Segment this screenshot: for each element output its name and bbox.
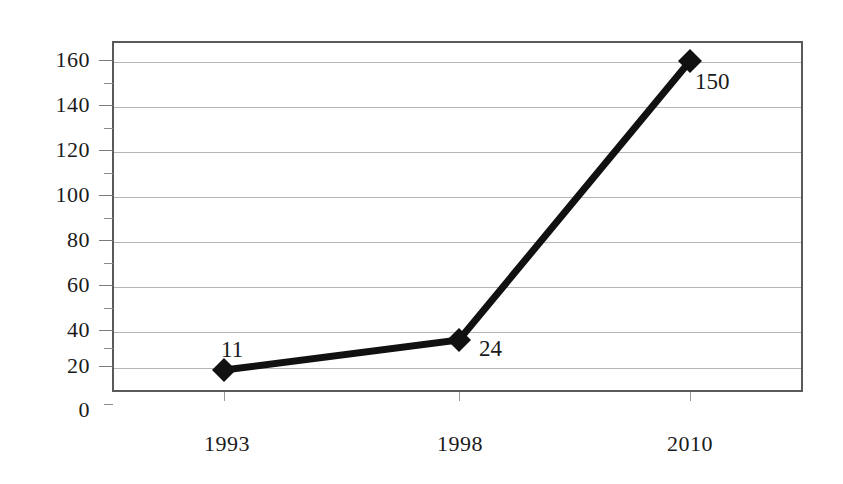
data-label-1998: 24	[479, 337, 502, 360]
y-tick-label-100: 100	[20, 184, 90, 206]
y-tick-label-120: 120	[20, 139, 90, 161]
y-tick-mark-90	[104, 218, 113, 219]
y-tick-mark-100	[99, 195, 113, 196]
y-tick-mark-30	[104, 348, 113, 349]
gridline-100	[114, 197, 801, 198]
y-tick-mark-120	[99, 150, 113, 151]
y-tick-mark-0	[104, 404, 113, 405]
gridline-120	[114, 152, 801, 153]
y-tick-mark-140	[99, 105, 113, 106]
y-tick-mark-60	[99, 285, 113, 286]
y-tick-label-160: 160	[20, 49, 90, 71]
data-label-2010: 150	[695, 70, 730, 93]
y-tick-label-20: 20	[20, 355, 90, 377]
y-tick-mark-110	[104, 173, 113, 174]
x-tick-label-1993: 1993	[167, 432, 287, 456]
y-tick-mark-40	[99, 330, 113, 331]
y-tick-label-0: 0	[20, 399, 90, 421]
y-tick-mark-150	[104, 83, 113, 84]
data-label-1993: 11	[221, 338, 243, 361]
y-tick-mark-80	[99, 240, 113, 241]
gridline-20	[114, 368, 801, 369]
y-tick-mark-50	[104, 308, 113, 309]
y-axis: 160 140 120 100 80 60 40 20 0	[20, 0, 90, 484]
x-tick-label-1998: 1998	[400, 432, 520, 456]
x-tick-mark-2010	[690, 392, 691, 401]
y-tick-mark-70	[104, 263, 113, 264]
x-tick-label-2010: 2010	[630, 432, 750, 456]
gridline-40	[114, 332, 801, 333]
y-tick-label-40: 40	[20, 319, 90, 341]
y-tick-mark-130	[104, 128, 113, 129]
y-tick-mark-20	[99, 366, 113, 367]
y-tick-label-140: 140	[20, 94, 90, 116]
gridline-160	[114, 62, 801, 63]
x-tick-mark-1998	[459, 392, 460, 401]
x-tick-mark-1993	[224, 392, 225, 401]
y-tick-label-60: 60	[20, 274, 90, 296]
gridline-60	[114, 287, 801, 288]
y-tick-label-80: 80	[20, 229, 90, 251]
gridline-140	[114, 107, 801, 108]
gridline-80	[114, 242, 801, 243]
line-chart: 160 140 120 100 80 60 40 20 0 1993 1998 …	[0, 0, 843, 484]
y-tick-mark-160	[99, 60, 113, 61]
